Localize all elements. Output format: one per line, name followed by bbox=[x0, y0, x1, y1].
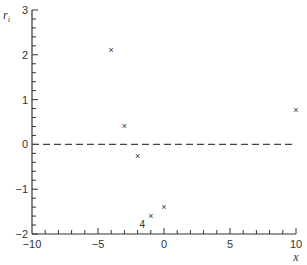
data-point-marker: × bbox=[161, 202, 166, 212]
annotations: 4 bbox=[139, 219, 145, 230]
point-annotation: 4 bbox=[139, 219, 145, 230]
y-tick-label: 1 bbox=[22, 94, 28, 106]
data-point-marker: × bbox=[148, 211, 153, 221]
data-points: ×××××× bbox=[109, 45, 299, 221]
y-axis-label: ri bbox=[3, 8, 10, 24]
data-point-marker: × bbox=[109, 45, 114, 55]
y-tick-label: −1 bbox=[15, 183, 28, 195]
y-tick-label: 2 bbox=[22, 49, 28, 61]
residual-scatter-chart: −2−10123−10−50510 ×××××× 4 rix bbox=[0, 0, 307, 265]
x-tick-label: 0 bbox=[161, 238, 167, 250]
data-point-marker: × bbox=[135, 151, 140, 161]
y-tick-label: 0 bbox=[22, 138, 28, 150]
x-axis-label: x bbox=[292, 250, 299, 264]
y-axis-label-subscript: i bbox=[8, 15, 10, 24]
y-tick-label: 3 bbox=[22, 4, 28, 16]
x-tick-label: −10 bbox=[23, 238, 42, 250]
axis-labels: rix bbox=[3, 8, 299, 264]
data-point-marker: × bbox=[293, 105, 298, 115]
data-point-marker: × bbox=[122, 121, 127, 131]
x-tick-label: 10 bbox=[290, 238, 302, 250]
x-tick-label: −5 bbox=[92, 238, 105, 250]
x-tick-label: 5 bbox=[227, 238, 233, 250]
axes: −2−10123−10−50510 bbox=[15, 4, 302, 250]
